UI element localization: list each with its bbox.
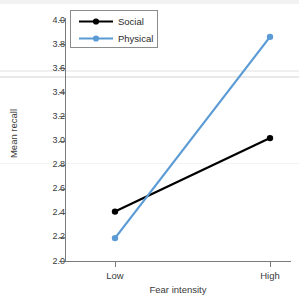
series-line-social bbox=[115, 138, 270, 212]
data-point-social-low bbox=[112, 208, 118, 214]
legend-label-physical: Physical bbox=[118, 33, 153, 44]
legend-swatch-physical bbox=[77, 30, 115, 47]
legend: Social Physical bbox=[70, 10, 158, 48]
legend-item-physical: Physical bbox=[71, 30, 159, 47]
series-social bbox=[112, 135, 273, 215]
legend-label-social: Social bbox=[118, 16, 144, 27]
chart-figure: 2.02.22.42.62.83.03.23.43.63.84.0 LowHig… bbox=[0, 0, 299, 296]
series-physical bbox=[112, 34, 273, 242]
data-point-physical-low bbox=[112, 235, 118, 241]
legend-swatch-social bbox=[77, 13, 115, 30]
series-line-physical bbox=[115, 37, 270, 238]
data-point-social-high bbox=[267, 135, 273, 141]
legend-item-social: Social bbox=[71, 13, 159, 30]
data-point-physical-high bbox=[267, 34, 273, 40]
